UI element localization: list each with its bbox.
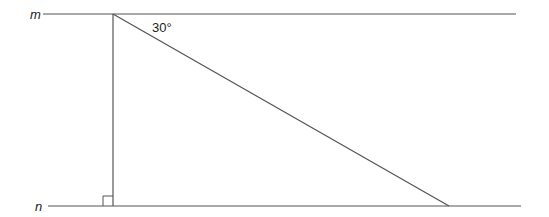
right-angle-marker <box>103 196 113 206</box>
geometry-diagram: m n 30° <box>0 0 549 217</box>
transversal-segment <box>113 14 449 206</box>
angle-label: 30° <box>152 20 172 35</box>
label-n: n <box>35 199 42 214</box>
label-m: m <box>30 7 41 22</box>
